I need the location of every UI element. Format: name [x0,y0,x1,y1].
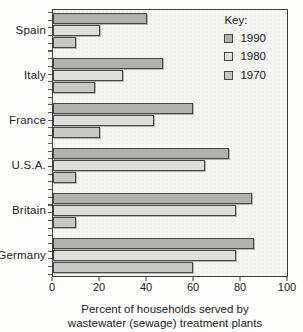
category-label-usa: U.S.A. [0,147,52,182]
bar-group-usa [53,148,287,183]
bar-france-1970 [53,127,100,138]
legend-item-1980: 1980 [224,51,266,63]
legend-swatch-1970 [224,71,233,80]
legend-label-1970: 1970 [240,70,266,82]
x-tick-label-80: 80 [234,281,246,293]
legend-swatch-1990 [224,34,233,43]
bar-britain-1970 [53,217,76,228]
x-tick-label-100: 100 [278,281,296,293]
category-label-france: France [0,102,52,137]
chart-row: SpainItalyFranceU.S.A.BritainGermany Key… [0,9,288,277]
bar-group-france [53,103,287,138]
legend-swatch-1980 [224,52,233,61]
x-axis-label-line2: wastewater (sewage) treatment plants [40,316,290,330]
legend-items: 199019801970 [224,33,266,82]
x-tick-label-20: 20 [93,281,105,293]
bar-spain-1980 [53,25,100,36]
legend-item-1970: 1970 [224,70,266,82]
category-label-britain: Britain [0,192,52,227]
x-tick-label-0: 0 [49,281,55,293]
bar-britain-1990 [53,193,252,204]
x-tick-label-40: 40 [140,281,152,293]
bar-usa-1990 [53,148,229,159]
bar-germany-1980 [53,250,236,261]
bar-germany-1990 [53,238,254,249]
bar-spain-1970 [53,37,76,48]
bar-usa-1970 [53,172,76,183]
legend-label-1980: 1980 [240,51,266,63]
bar-italy-1990 [53,58,163,69]
y-axis-ticks [48,12,52,276]
bar-italy-1970 [53,82,95,93]
bar-france-1990 [53,103,193,114]
bar-chart-figure: SpainItalyFranceU.S.A.BritainGermany Key… [0,0,303,332]
bar-group-britain [53,193,287,228]
bar-france-1980 [53,115,154,126]
bar-italy-1980 [53,70,123,81]
bar-usa-1980 [53,160,205,171]
bar-germany-1970 [53,262,193,273]
legend-label-1990: 1990 [240,33,266,45]
x-axis: 020406080100 [52,277,287,295]
x-axis-label-line1: Percent of households served by [40,302,290,316]
plot-area: Key: 199019801970 [52,9,288,277]
x-axis-label: Percent of households served by wastewat… [40,302,290,331]
category-label-spain: Spain [0,12,52,47]
bar-group-germany [53,238,287,273]
category-label-italy: Italy [0,57,52,92]
bar-britain-1980 [53,205,236,216]
bar-spain-1990 [53,13,147,24]
legend-title: Key: [224,15,266,27]
legend: Key: 199019801970 [224,13,266,88]
category-label-germany: Germany [0,237,52,272]
y-axis-labels: SpainItalyFranceU.S.A.BritainGermany [0,9,52,277]
x-tick-label-60: 60 [187,281,199,293]
legend-item-1990: 1990 [224,33,266,45]
